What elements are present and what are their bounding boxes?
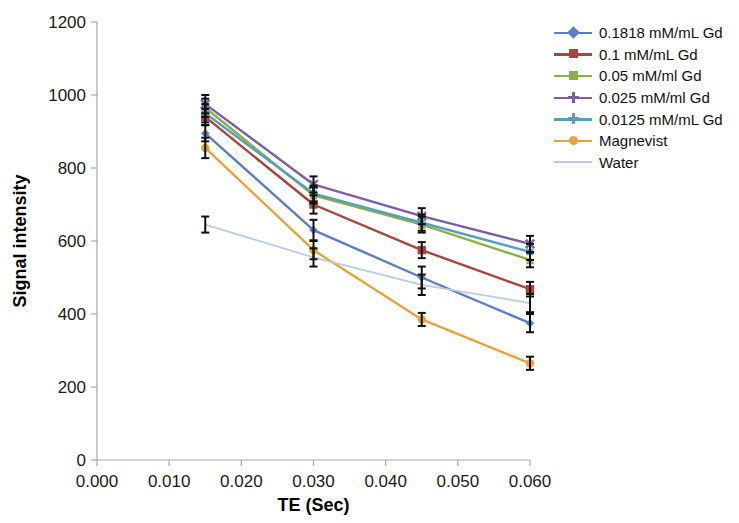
chart-figure: 0200400600800100012000.0000.0100.0200.03… xyxy=(0,0,739,523)
x-tick-label: 0.000 xyxy=(76,472,119,491)
legend-item-1[interactable]: 0.1818 mM/mL Gd xyxy=(554,22,734,44)
legend-item-label: 0.1 mM/mL Gd xyxy=(599,47,698,62)
x-tick-label: 0.030 xyxy=(292,472,335,491)
series-path xyxy=(205,225,530,303)
error-bars-series-1 xyxy=(201,125,534,332)
legend-item-2[interactable]: 0.1 mM/mL Gd xyxy=(554,44,734,66)
legend-item-label: Magnevist xyxy=(599,133,667,148)
series-path xyxy=(205,108,530,260)
legend-item-label: Water xyxy=(599,155,638,170)
series-7 xyxy=(205,225,530,303)
legend-marker-icon xyxy=(554,134,592,148)
y-tick-label: 800 xyxy=(58,159,86,178)
y-tick-label: 400 xyxy=(58,305,86,324)
series-5 xyxy=(201,109,534,256)
y-tick-label: 1000 xyxy=(48,86,86,105)
legend-marker-icon xyxy=(554,155,592,169)
legend-item-6[interactable]: Magnevist xyxy=(554,130,734,152)
y-tick-label: 1200 xyxy=(48,13,86,32)
legend-marker-icon xyxy=(554,69,592,83)
error-bars-series-3 xyxy=(201,99,534,268)
error-bars-series-7 xyxy=(201,217,534,313)
y-axis-title: Signal intensity xyxy=(10,174,30,307)
series-path xyxy=(205,104,530,244)
chart-legend: 0.1818 mM/mL Gd0.1 mM/mL Gd0.05 mM/ml Gd… xyxy=(554,22,734,173)
series-path xyxy=(205,148,530,363)
y-tick-label: 0 xyxy=(77,451,86,470)
legend-item-5[interactable]: 0.0125 mM/mL Gd xyxy=(554,108,734,130)
legend-item-label: 0.05 mM/ml Gd xyxy=(599,68,702,83)
series-6 xyxy=(201,144,534,368)
legend-marker-icon xyxy=(554,26,592,40)
series-path xyxy=(205,117,530,289)
legend-item-label: 0.0125 mM/mL Gd xyxy=(599,112,723,127)
y-tick-label: 200 xyxy=(58,378,86,397)
legend-item-3[interactable]: 0.05 mM/ml Gd xyxy=(554,65,734,87)
y-tick-label: 600 xyxy=(58,232,86,251)
legend-item-label: 0.025 mM/ml Gd xyxy=(599,90,710,105)
legend-marker-icon xyxy=(554,112,592,126)
x-tick-label: 0.060 xyxy=(509,472,552,491)
legend-marker-icon xyxy=(554,47,592,61)
x-tick-label: 0.050 xyxy=(437,472,480,491)
x-tick-label: 0.020 xyxy=(220,472,263,491)
series-2 xyxy=(201,113,534,294)
error-bars-series-5 xyxy=(201,104,534,260)
x-tick-label: 0.040 xyxy=(364,472,407,491)
legend-item-label: 0.1818 mM/mL Gd xyxy=(599,25,723,40)
x-axis-title: TE (Sec) xyxy=(277,495,349,515)
legend-marker-icon xyxy=(554,91,592,105)
legend-item-4[interactable]: 0.025 mM/ml Gd xyxy=(554,87,734,109)
x-tick-label: 0.010 xyxy=(148,472,191,491)
legend-item-7[interactable]: Water xyxy=(554,152,734,174)
